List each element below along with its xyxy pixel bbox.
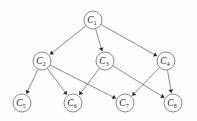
edge-c1-to-c2 [50, 26, 86, 55]
nodes-layer: C1C2C3C4C5C6C7C8 [13, 11, 182, 112]
node-c2[interactable]: C2 [33, 52, 51, 70]
node-c4[interactable]: C4 [157, 52, 175, 70]
directed-graph: C1C2C3C4C5C6C7C8 [0, 0, 197, 121]
edge-c1-to-c3 [96, 29, 102, 51]
arrowhead-c3-to-c6 [79, 91, 83, 95]
diagram-canvas: C1C2C3C4C5C6C7C8 [0, 0, 197, 121]
edge-c4-to-c7 [132, 68, 159, 96]
node-c8[interactable]: C8 [164, 94, 182, 112]
node-c3[interactable]: C3 [96, 52, 114, 70]
node-c5[interactable]: C5 [13, 94, 31, 112]
arrowhead-c4-to-c8 [168, 89, 173, 93]
node-c1[interactable]: C1 [84, 11, 102, 29]
node-c7[interactable]: C7 [116, 94, 134, 112]
edge-c3-to-c6 [79, 69, 99, 95]
node-c6[interactable]: C6 [64, 94, 82, 112]
edge-c2-to-c5 [26, 70, 38, 94]
arrowhead-c2-to-c6 [63, 91, 67, 95]
arrowhead-c3-to-c8 [160, 94, 164, 98]
arrowhead-c1-to-c2 [50, 51, 54, 55]
edge-c4-to-c8 [168, 70, 172, 93]
edge-c1-to-c4 [101, 25, 157, 56]
edge-c2-to-c6 [48, 69, 67, 95]
